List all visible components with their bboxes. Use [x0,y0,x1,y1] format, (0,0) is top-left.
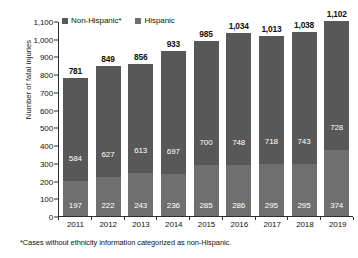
bar-column[interactable]: 1,102728374 [320,22,353,216]
bar-segment-non-hispanic[interactable]: 697 [161,51,186,175]
plot-area: 7815841978496272228566132439336972369857… [58,22,353,217]
y-tick-label: 500 [40,124,53,133]
bar-column[interactable]: 849627222 [92,22,125,216]
bar-segment-non-hispanic[interactable]: 743 [292,32,317,164]
bar-stack[interactable]: 613243 [128,64,153,216]
bar-segment-non-hispanic[interactable]: 748 [226,33,251,166]
y-tick-label: 400 [40,142,53,151]
bar-segment-label: 295 [265,202,278,210]
stacked-bar-chart: Non-Hispanic* Hispanic Number of fatal i… [0,0,358,258]
bar-segment-non-hispanic[interactable]: 728 [324,21,349,150]
x-tick-label: 2015 [190,220,223,229]
bar-segment-label: 584 [69,155,82,163]
bar-segment-label: 286 [232,202,245,210]
bar-total-label: 985 [199,29,212,39]
bar-total-label: 933 [167,39,180,49]
bar-total-label: 1,013 [261,24,281,34]
x-tick-label: 2018 [288,220,321,229]
y-tick-label: 800 [40,71,53,80]
y-tick-label: 1,000 [33,35,53,44]
bar-segment-label: 613 [134,147,147,155]
bar-total-label: 1,102 [327,9,347,19]
y-tick-label: 200 [40,177,53,186]
bar-segment-hispanic[interactable]: 222 [96,177,121,216]
bar-segment-non-hispanic[interactable]: 700 [194,41,219,165]
bar-segment-label: 197 [69,202,82,210]
y-tick-label: 1,100 [33,18,53,27]
bar-segment-label: 243 [134,202,147,210]
bar-stack[interactable]: 700285 [194,41,219,216]
bar-stack[interactable]: 718295 [259,36,284,216]
bar-segment-label: 285 [199,202,212,210]
bar-segment-label: 728 [330,124,343,132]
bar-segment-label: 236 [167,202,180,210]
y-tick-label: 0 [49,213,53,222]
bar-segment-non-hispanic[interactable]: 627 [96,66,121,177]
bar-segment-hispanic[interactable]: 285 [194,165,219,216]
x-tick-label: 2013 [125,220,158,229]
bar-segment-non-hispanic[interactable]: 613 [128,64,153,173]
bar-stack[interactable]: 728374 [324,21,349,216]
bar-stack[interactable]: 748286 [226,33,251,216]
bar-segment-hispanic[interactable]: 243 [128,173,153,216]
bar-column[interactable]: 856613243 [124,22,157,216]
x-tick-label: 2011 [59,220,92,229]
y-tick-label: 600 [40,106,53,115]
x-tick-label: 2014 [157,220,190,229]
bar-stack[interactable]: 627222 [96,66,121,216]
bar-total-label: 856 [134,52,147,62]
bar-segment-label: 374 [330,202,343,210]
bar-total-label: 849 [101,54,114,64]
y-tick-label: 100 [40,195,53,204]
bar-stack[interactable]: 697236 [161,51,186,216]
bar-segment-label: 700 [199,139,212,147]
bar-column[interactable]: 933697236 [157,22,190,216]
bar-segment-non-hispanic[interactable]: 718 [259,36,284,163]
x-axis-labels: 201120122013201420152016201720182019 [59,220,354,229]
y-tick-label: 900 [40,53,53,62]
bar-total-label: 781 [69,66,82,76]
bar-column[interactable]: 1,038743295 [288,22,321,216]
bar-segment-label: 295 [298,202,311,210]
chart-footnote: *Cases without ethnicity information cat… [20,238,231,247]
x-tick-label: 2012 [92,220,125,229]
y-tick-label: 300 [40,159,53,168]
bar-column[interactable]: 1,034748286 [222,22,255,216]
bar-segment-non-hispanic[interactable]: 584 [63,78,88,182]
bar-segment-hispanic[interactable]: 197 [63,181,88,216]
bar-segment-label: 743 [298,138,311,146]
bar-column[interactable]: 1,013718295 [255,22,288,216]
y-axis-ticks: 1,1001,0009008007006005004003002001000 [0,0,58,258]
y-tick-label: 700 [40,88,53,97]
bar-stack[interactable]: 584197 [63,78,88,216]
bar-total-label: 1,038 [294,20,314,30]
x-tick-label: 2016 [223,220,256,229]
bar-column[interactable]: 781584197 [59,22,92,216]
bar-segment-label: 222 [101,202,114,210]
bar-segment-label: 718 [265,138,278,146]
bar-segment-hispanic[interactable]: 236 [161,174,186,216]
bar-stack[interactable]: 743295 [292,32,317,216]
bar-segment-hispanic[interactable]: 295 [259,164,284,216]
bar-segment-hispanic[interactable]: 286 [226,165,251,216]
bar-total-label: 1,034 [229,21,249,31]
x-tick-label: 2017 [256,220,289,229]
bar-group: 7815841978496272228566132439336972369857… [59,22,353,216]
x-tick-label: 2019 [321,220,354,229]
bar-segment-label: 627 [101,151,114,159]
bar-column[interactable]: 985700285 [190,22,223,216]
bar-segment-hispanic[interactable]: 374 [324,150,349,216]
bar-segment-hispanic[interactable]: 295 [292,164,317,216]
bar-segment-label: 748 [232,139,245,147]
bar-segment-label: 697 [167,148,180,156]
